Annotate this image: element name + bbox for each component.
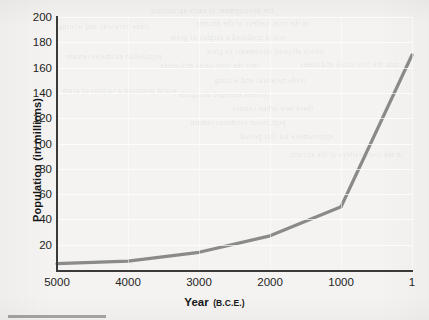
y-tick-label: 100 — [8, 138, 52, 150]
y-tick-label: 160 — [8, 62, 52, 74]
x-tick-label: 4000 — [115, 276, 141, 288]
x-tick-label: 3000 — [186, 276, 212, 288]
vertical-gridline — [199, 17, 200, 270]
x-axis-title: Year (B.C.E.) — [0, 292, 429, 310]
y-tick-label: 120 — [8, 112, 52, 124]
x-tick-label: 2000 — [257, 276, 283, 288]
population-line-chart: the development of early agriculture in … — [0, 0, 429, 320]
y-tick-label: 140 — [8, 87, 52, 99]
y-axis-title: Population (in millions) — [31, 75, 43, 245]
gridline — [57, 42, 412, 43]
x-tick-label: 1000 — [328, 276, 354, 288]
y-tick-label: 200 — [8, 11, 52, 23]
series-polyline — [57, 55, 412, 264]
vertical-gridline — [412, 17, 413, 270]
gridline — [57, 194, 412, 195]
gridline — [57, 17, 412, 18]
vertical-gridline — [128, 17, 129, 270]
y-axis-tick-labels: 20018016014012010080604020 — [0, 0, 52, 320]
gridline — [57, 93, 412, 94]
x-axis-title-era: (B.C.E.) — [213, 298, 245, 308]
gridline — [57, 245, 412, 246]
y-tick-label: 180 — [8, 36, 52, 48]
x-axis-title-main: Year — [184, 296, 208, 308]
y-axis-line — [56, 16, 58, 272]
x-tick-label: 1 — [409, 276, 415, 288]
plot-area — [57, 17, 412, 270]
gridline — [57, 219, 412, 220]
bleed-line: the development of early agriculture — [150, 6, 274, 15]
gridline — [57, 144, 412, 145]
page-edge-mark — [8, 315, 106, 318]
y-tick-label: 80 — [8, 163, 52, 175]
gridline — [57, 68, 412, 69]
y-tick-label: 60 — [8, 188, 52, 200]
x-tick-label: 5000 — [44, 276, 70, 288]
vertical-gridline — [341, 17, 342, 270]
y-tick-label: 20 — [8, 239, 52, 251]
vertical-gridline — [270, 17, 271, 270]
gridline — [57, 169, 412, 170]
x-axis-line — [56, 270, 413, 272]
y-tick-label: 40 — [8, 213, 52, 225]
gridline — [57, 118, 412, 119]
